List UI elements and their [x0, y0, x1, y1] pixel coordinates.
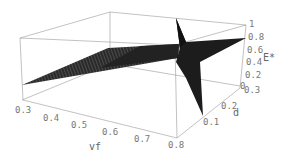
z-tick: 0.4: [246, 58, 262, 67]
y-tick: 0.1: [203, 118, 219, 127]
z-tick: 1: [249, 20, 254, 29]
z-axis-label: E*: [263, 53, 275, 63]
z-tick: 0.2: [245, 71, 261, 80]
x-axis-label: vf: [89, 142, 101, 152]
x-tick: 0.4: [43, 114, 59, 123]
y-tick: 0.3: [244, 86, 260, 95]
x-tick: 0.6: [102, 128, 118, 137]
z-tick: 0.8: [248, 33, 264, 42]
x-tick: 0.5: [71, 121, 87, 130]
x-tick: 0.8: [168, 141, 184, 150]
surface: [22, 18, 246, 116]
x-tick: 0.3: [15, 106, 31, 115]
y-axis-label: d: [233, 108, 239, 118]
x-tick: 0.7: [134, 135, 150, 144]
z-tick: 0.6: [247, 46, 263, 55]
